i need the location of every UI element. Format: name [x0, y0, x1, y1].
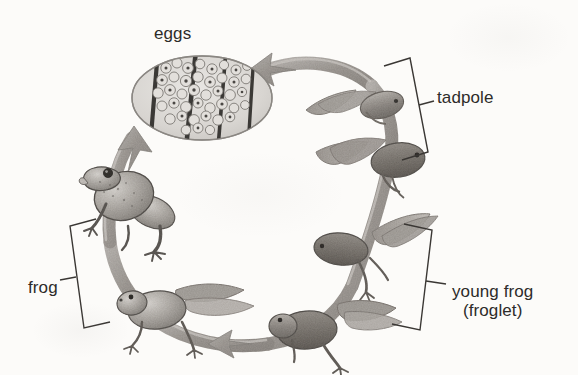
label-young-frog-line2: (froglet): [452, 301, 533, 320]
label-eggs: eggs: [154, 24, 191, 43]
bracket-frog: [60, 219, 110, 328]
label-young-frog: young frog(froglet): [452, 282, 533, 320]
stage-late-tadpole: [316, 138, 427, 198]
label-young-frog-line1: young frog: [452, 282, 533, 301]
diagram-canvas: eggs tadpole frog young frog(froglet): [0, 0, 578, 375]
arrow-head-bottom: [208, 330, 252, 358]
label-tadpole: tadpole: [437, 88, 493, 107]
stage-adult-frog: [79, 165, 180, 261]
label-frog: frog: [28, 278, 58, 297]
stage-eggs: [132, 50, 272, 148]
